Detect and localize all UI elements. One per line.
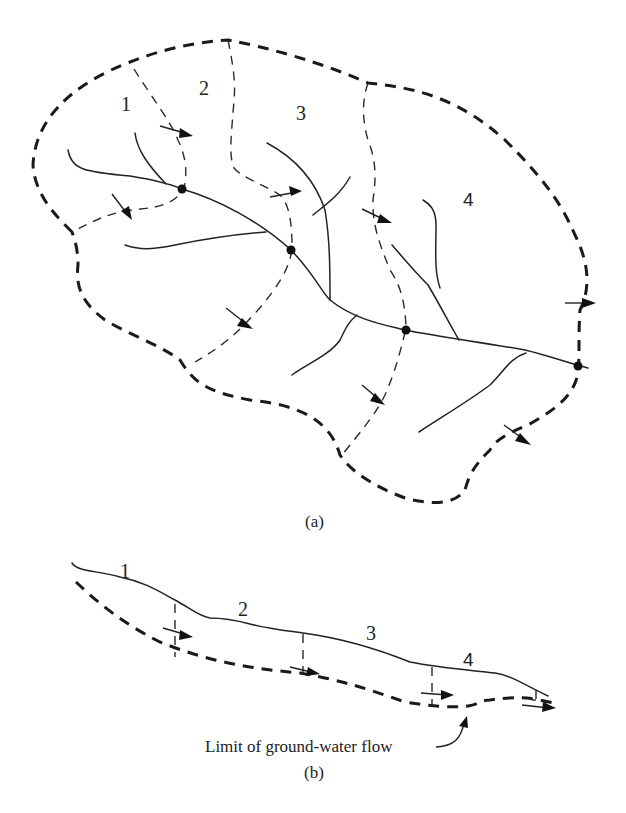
watershed-boundary xyxy=(33,40,587,503)
tributary xyxy=(419,353,526,432)
subbasin-label-4: 4 xyxy=(463,190,474,209)
flow-arrow-icon xyxy=(160,126,193,138)
annotation-leader-arrow-icon xyxy=(436,716,468,747)
divide-2-3 xyxy=(195,40,292,362)
tributary xyxy=(125,232,266,249)
outlet-node-2 xyxy=(287,246,296,255)
flow-arrow-icon xyxy=(362,385,385,405)
flow-arrow-icon xyxy=(226,308,253,329)
watershed-figure: 1 2 3 4 (a) 1 2 3 4 Limit of ground-wate… xyxy=(0,0,626,813)
tributary xyxy=(392,245,459,340)
panel-a-plan-view xyxy=(33,40,596,503)
flow-arrow-icon xyxy=(421,690,454,700)
flow-arrow-icon xyxy=(112,194,132,220)
segment-label-1: 1 xyxy=(120,561,130,581)
figure-drawing xyxy=(0,0,626,813)
segment-label-4: 4 xyxy=(463,650,474,669)
panel-b-profile xyxy=(72,563,558,747)
tributary xyxy=(292,315,357,375)
tributary xyxy=(423,200,440,288)
subbasin-label-3: 3 xyxy=(296,103,306,123)
panel-a-caption: (a) xyxy=(305,513,324,530)
panel-b-caption: (b) xyxy=(304,764,324,781)
outlet-node-1 xyxy=(178,185,187,194)
segment-label-2: 2 xyxy=(238,599,248,619)
tributary xyxy=(135,133,166,184)
flow-arrow-icon xyxy=(362,209,392,223)
outlet-node-3 xyxy=(402,326,411,335)
subbasin-label-1: 1 xyxy=(121,94,131,114)
main-stream xyxy=(68,150,588,368)
groundwater-limit xyxy=(76,582,558,707)
tributary xyxy=(267,143,330,300)
segment-label-3: 3 xyxy=(366,623,376,643)
subbasin-label-2: 2 xyxy=(199,78,209,98)
outlet-node-4 xyxy=(574,362,583,371)
flow-arrow-icon xyxy=(163,628,193,640)
groundwater-limit-annotation: Limit of ground-water flow xyxy=(205,738,392,755)
